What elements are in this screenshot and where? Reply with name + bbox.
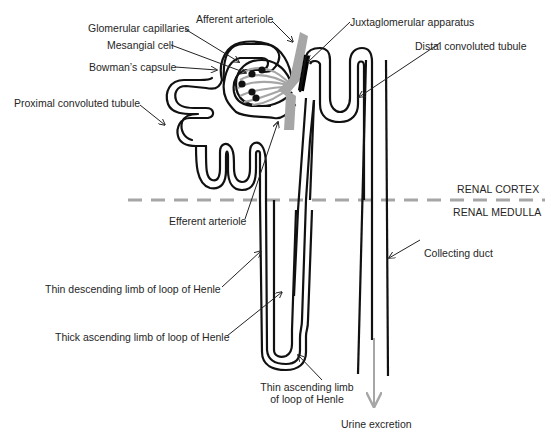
nephron-diagram (0, 0, 551, 441)
label-thin-descending-limb: Thin descending limb of loop of Henle (45, 283, 221, 295)
label-collecting-duct: Collecting duct (424, 247, 493, 259)
label-thin-ascending-limb: Thin ascending limb of loop of Henle (252, 381, 362, 405)
label-urine-excretion: Urine excretion (341, 418, 412, 430)
label-glomerular-capillaries: Glomerular capillaries (88, 22, 190, 34)
label-efferent-arteriole: Efferent arteriole (169, 215, 246, 227)
label-distal-convoluted-tubule: Distal convoluted tubule (415, 40, 527, 52)
loop-of-henle (260, 100, 314, 370)
proximal-convoluted-tubule (167, 42, 295, 200)
label-thick-ascending-limb: Thick ascending limb of loop of Henle (55, 331, 230, 343)
label-mesangial-cell: Mesangial cell (107, 39, 174, 51)
label-thin-ascending-limb-line2: of loop of Henle (252, 393, 362, 405)
label-proximal-convoluted-tubule: Proximal convoluted tubule (14, 97, 140, 109)
label-thin-ascending-limb-line1: Thin ascending limb (252, 381, 362, 393)
label-juxtaglomerular-apparatus: Juxtaglomerular apparatus (350, 16, 474, 28)
label-renal-medulla: RENAL MEDULLA (453, 206, 541, 218)
label-afferent-arteriole: Afferent arteriole (196, 13, 273, 25)
label-renal-cortex: RENAL CORTEX (457, 183, 539, 195)
label-bowmans-capsule: Bowman’s capsule (89, 61, 176, 73)
